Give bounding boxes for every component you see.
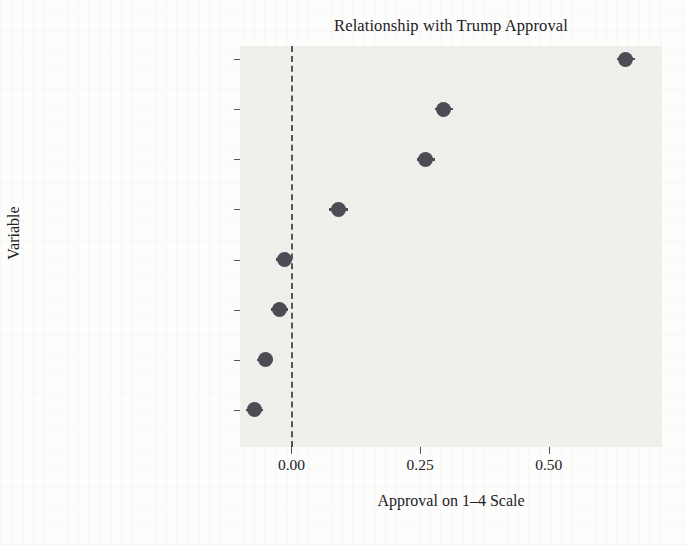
estimate-point bbox=[247, 402, 262, 417]
estimate-point bbox=[418, 152, 433, 167]
estimate-point bbox=[436, 102, 451, 117]
estimate-point bbox=[258, 352, 273, 367]
estimate-point bbox=[277, 252, 292, 267]
x-axis-tick bbox=[420, 447, 421, 454]
estimate-point bbox=[331, 202, 346, 217]
chart-page: Relationship with Trump Approval PartyID… bbox=[0, 0, 687, 545]
y-axis-tick bbox=[234, 159, 240, 160]
y-axis-tick bbox=[234, 360, 240, 361]
y-axis-title: Variable bbox=[5, 193, 23, 273]
estimate-point bbox=[618, 52, 633, 67]
x-axis-tick bbox=[549, 447, 550, 454]
x-axis-title: Approval on 1–4 Scale bbox=[240, 492, 662, 510]
y-axis-tick bbox=[234, 209, 240, 210]
estimate-point bbox=[272, 302, 287, 317]
y-axis-tick bbox=[234, 410, 240, 411]
x-axis-tick-label: 0.00 bbox=[278, 456, 305, 474]
zero-reference-line bbox=[291, 46, 293, 447]
y-axis-tick bbox=[234, 59, 240, 60]
plot-panel: PartyIDRacial_DeservingnessConsumerScale… bbox=[240, 46, 662, 447]
y-axis-tick bbox=[234, 260, 240, 261]
x-axis-tick-label: 0.50 bbox=[535, 456, 562, 474]
x-axis-tick-label: 0.25 bbox=[407, 456, 434, 474]
x-axis-tick bbox=[291, 447, 292, 454]
y-axis-tick bbox=[234, 109, 240, 110]
y-axis-tick bbox=[234, 310, 240, 311]
chart-title: Relationship with Trump Approval bbox=[240, 16, 662, 36]
